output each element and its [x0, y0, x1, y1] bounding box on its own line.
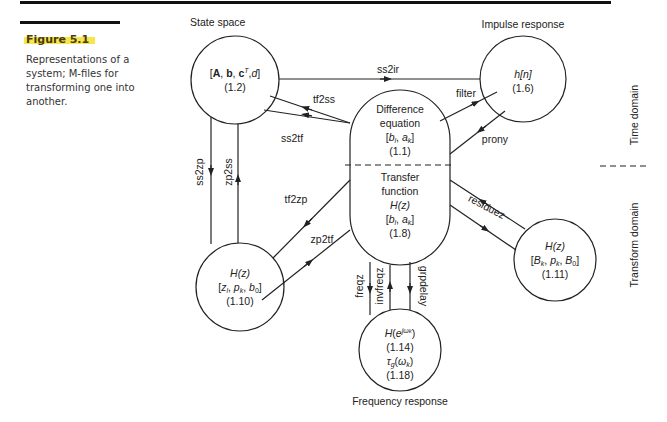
state-space-matrices: [A, b, cT,d] — [210, 67, 261, 79]
state-space-eq: (1.2) — [224, 81, 246, 93]
edge-label-prony: prony — [482, 133, 509, 145]
difference-eq: (1.1) — [389, 145, 411, 157]
edge-label-ss2tf: ss2tf — [281, 132, 303, 144]
difference-label-2: equation — [380, 117, 420, 129]
edge-label-zp2ss: zp2ss — [222, 158, 234, 185]
difference-label-1: Difference — [376, 103, 424, 115]
zpk-eq: (1.10) — [226, 295, 253, 307]
frequency-response-title: Frequency response — [352, 395, 448, 407]
impulse-response-hn: h[n] — [514, 68, 533, 80]
frequency-response-eq2: (1.18) — [386, 369, 413, 381]
time-domain-label: Time domain — [628, 85, 640, 145]
residue-params: [Bk, pk, B0] — [531, 254, 579, 267]
edge-label-freqz: freqz — [353, 274, 365, 297]
edge-label-ss2zp: ss2zp — [193, 158, 205, 186]
frequency-response-eq1: (1.14) — [386, 341, 413, 353]
residue-eq: (1.11) — [542, 268, 569, 280]
edge-label-residuez: residuez — [467, 192, 508, 221]
transfer-coeffs: [bl, ak] — [386, 213, 415, 226]
edge-label-grpdelay: grpdelay — [418, 266, 430, 307]
frequency-response-tau: τg(ωk) — [387, 355, 414, 369]
impulse-response-eq: (1.6) — [512, 82, 534, 94]
edge-label-zp2tf: zp2tf — [311, 233, 334, 245]
difference-coeffs: [bl, ak] — [386, 131, 415, 144]
zpk-params: [zl, pk, b0] — [218, 281, 262, 294]
edge-label-ss2ir: ss2ir — [377, 63, 400, 75]
residue-hz: H(z) — [545, 240, 565, 252]
state-space-title: State space — [190, 16, 246, 28]
impulse-response-title: Impulse response — [482, 18, 565, 30]
transfer-hz: H(z) — [390, 199, 410, 211]
transfer-eq: (1.8) — [389, 227, 411, 239]
edge-label-tf2zp: tf2zp — [285, 193, 308, 205]
edge-label-tf2ss: tf2ss — [313, 93, 335, 105]
zpk-hz: H(z) — [230, 267, 250, 279]
frequency-response-h: H(ejωk) — [385, 327, 415, 339]
edge-label-invfreqz: invfreqz — [373, 268, 385, 305]
transfer-label-2: function — [382, 185, 419, 197]
transfer-label-1: Transfer — [381, 171, 420, 183]
transform-domain-label: Transform domain — [628, 202, 640, 287]
edge-label-filter: filter — [456, 87, 476, 99]
system-representations-diagram: State space [A, b, cT,d] (1.2) Impulse r… — [0, 0, 667, 422]
